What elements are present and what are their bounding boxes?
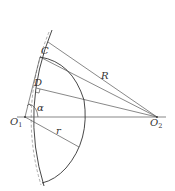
label-C: C — [41, 45, 49, 56]
geometry-diagram: C D R α r O1 O2 — [0, 0, 175, 191]
label-O1: O1 — [10, 116, 22, 129]
label-O2: O2 — [150, 117, 162, 130]
label-alpha: α — [37, 102, 44, 113]
label-r: r — [56, 125, 62, 136]
label-R: R — [100, 70, 109, 81]
line-C-O2 — [40, 57, 157, 117]
label-D: D — [33, 77, 42, 88]
inner-arc-r — [40, 57, 85, 183]
point-O1 — [24, 116, 26, 118]
point-O2 — [156, 116, 158, 118]
radius-r-line — [25, 117, 79, 147]
line-D-O2 — [36, 88, 157, 117]
